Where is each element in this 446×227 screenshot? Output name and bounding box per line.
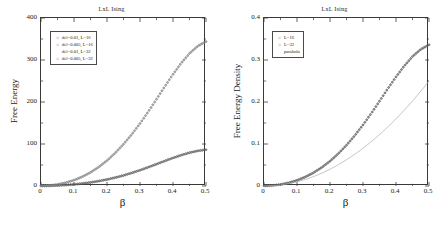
x-tick-label: 0.3 xyxy=(348,187,376,195)
chart-title-left: LxL Ising xyxy=(0,5,223,12)
legend-marker-icon: ○ xyxy=(275,34,284,41)
legend-marker-icon: ○ xyxy=(53,55,62,62)
x-tick-label: 0.4 xyxy=(158,187,186,195)
chart-panel-right: LxL Ising Free Energy Density ○L=16○L=32… xyxy=(223,0,446,227)
legend-item: ○parabola xyxy=(275,48,300,55)
chart-panel-left: LxL Ising Free Energy ○del=0.01, L=16○de… xyxy=(0,0,223,227)
x-tick-label: 0.2 xyxy=(315,187,343,195)
y-tick-label: 0.1 xyxy=(223,139,260,147)
x-axis-label-left: β xyxy=(40,196,205,208)
legend-marker-icon: ○ xyxy=(53,41,62,48)
y-tick-label: 0 xyxy=(0,181,37,189)
figure-container: LxL Ising Free Energy ○del=0.01, L=16○de… xyxy=(0,0,446,227)
legend-marker-icon: ○ xyxy=(53,48,62,55)
legend-marker-icon: ○ xyxy=(275,48,284,55)
y-tick-label: 0 xyxy=(223,181,260,189)
legend-item: ○del=0.005, L=16 xyxy=(53,41,93,48)
x-tick-label: 0.1 xyxy=(282,187,310,195)
x-tick-label: 0.4 xyxy=(381,187,409,195)
y-tick-label: 200 xyxy=(0,97,37,105)
legend-label: L=16 xyxy=(284,34,294,41)
series-l-32 xyxy=(263,44,430,187)
legend-label: del=0.005, L=16 xyxy=(62,41,93,48)
x-tick-label: 0.1 xyxy=(59,187,87,195)
x-tick-label: 0.3 xyxy=(125,187,153,195)
legend-marker-icon: ○ xyxy=(53,34,62,41)
y-tick-label: 100 xyxy=(0,139,37,147)
legend-label: del=0.01, L=16 xyxy=(62,34,91,41)
y-tick-label: 300 xyxy=(0,55,37,63)
legend-item: ○del=0.005, L=32 xyxy=(53,55,93,62)
y-tick-label: 0.4 xyxy=(223,13,260,21)
x-tick-label: 0.5 xyxy=(414,187,442,195)
legend-item: ○del=0.01, L=16 xyxy=(53,34,93,41)
legend-label: L=32 xyxy=(284,41,294,48)
legend-label: del=0.01, L=32 xyxy=(62,48,91,55)
legend-right: ○L=16○L=32○parabola xyxy=(272,31,304,58)
legend-label: del=0.005, L=32 xyxy=(62,55,93,62)
x-axis-label-right: β xyxy=(263,196,428,208)
y-tick-label: 400 xyxy=(0,13,37,21)
legend-left: ○del=0.01, L=16○del=0.005, L=16○del=0.01… xyxy=(50,31,97,65)
legend-item: ○L=16 xyxy=(275,34,300,41)
y-tick-label: 0.3 xyxy=(223,55,260,63)
legend-label: parabola xyxy=(284,48,300,55)
series-parabola xyxy=(264,81,429,186)
legend-item: ○L=32 xyxy=(275,41,300,48)
legend-item: ○del=0.01, L=32 xyxy=(53,48,93,55)
x-tick-label: 0.5 xyxy=(191,187,219,195)
legend-marker-icon: ○ xyxy=(275,41,284,48)
y-tick-label: 0.2 xyxy=(223,97,260,105)
chart-title-right: LxL Ising xyxy=(223,5,446,12)
series-del-0-01-l-16 xyxy=(40,149,207,187)
x-tick-label: 0.2 xyxy=(92,187,120,195)
